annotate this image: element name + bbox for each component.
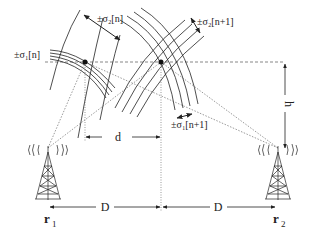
label-sigma1-n1: ±σ₁[n+1] (171, 119, 208, 130)
label-sigma2-n1: ±σ₂[n+1] (197, 16, 234, 27)
label-sigma1-n: ±σ₁[n] (14, 49, 40, 60)
intersection-point-n1 (159, 60, 164, 65)
intersection-point-n (83, 60, 88, 65)
label-D-right: D (214, 200, 223, 214)
tower-r2-icon (259, 144, 298, 200)
tower-to-point-lines (48, 62, 278, 148)
label-D-left: D (101, 200, 110, 214)
label-r2: r (273, 211, 279, 226)
label-h: h (282, 101, 296, 107)
label-d: d (115, 130, 121, 144)
sigma1-n1-arrow (177, 114, 192, 118)
arcs-sigma1-n (50, 50, 115, 98)
label-r1: r (44, 211, 50, 226)
label-r1-subscript: 1 (52, 219, 57, 229)
label-r2-subscript: 2 (281, 219, 286, 229)
arcs-sigma2-n (50, 10, 120, 138)
localization-geometry-diagram: ±σ₂[n] ±σ₂[n+1] ±σ₁[n] ±σ₁[n+1] d D D h (0, 0, 313, 232)
tower-r1-icon (29, 144, 68, 200)
label-sigma2-n: ±σ₂[n] (97, 13, 123, 24)
